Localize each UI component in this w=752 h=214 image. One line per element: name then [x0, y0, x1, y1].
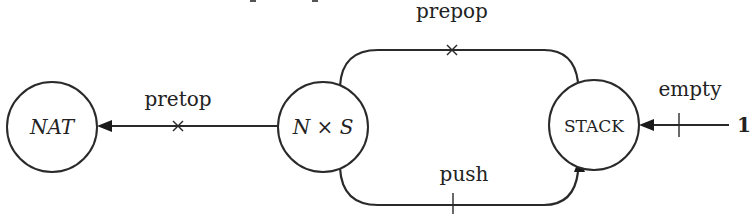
node-nxs-label: N × S [292, 115, 354, 139]
cut-off-heading [250, 0, 318, 2]
arrowhead-icon [639, 119, 654, 131]
node-stack: STACK [549, 80, 639, 170]
edge-prepop [340, 45, 585, 97]
diagram-canvas: NAT N × S STACK pretop prepop push empty… [0, 0, 752, 214]
terminal-one-label: 1 [737, 113, 751, 137]
node-stack-label: STACK [564, 116, 624, 136]
arrowhead-icon [97, 120, 112, 132]
node-nat: NAT [7, 82, 97, 172]
node-nat-label: NAT [29, 115, 76, 139]
edge-prepop-line [340, 50, 578, 86]
edge-label-prepop: prepop [416, 0, 488, 23]
edge-label-empty: empty [659, 77, 723, 101]
edge-empty [639, 113, 729, 137]
edge-pretop [97, 120, 278, 132]
edge-label-push: push [440, 162, 489, 186]
edge-label-pretop: pretop [144, 87, 211, 111]
node-nxs: N × S [278, 82, 368, 172]
